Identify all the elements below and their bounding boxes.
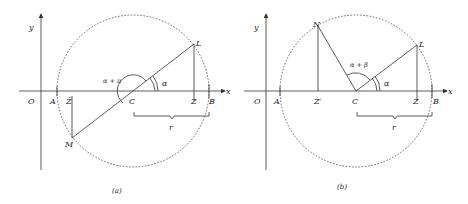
angle-outer-label-a: α + π [103, 77, 122, 85]
arc-alpha-a1 [150, 78, 155, 91]
arc-alpha-b1 [372, 78, 377, 91]
caption-b: (b) [337, 183, 347, 191]
point-C-a: C [129, 97, 135, 106]
point-Zbar: Z̄ [65, 97, 72, 106]
point-A-b: A [273, 97, 280, 106]
origin-label-b: O [254, 97, 261, 106]
origin-label-a: O [28, 97, 35, 106]
y-axis-label-b: y [253, 23, 259, 32]
caption-a: (a) [112, 187, 122, 195]
point-L-b: L [418, 40, 424, 49]
angle-alpha-label-a: α [162, 79, 168, 88]
point-M: M [64, 140, 74, 149]
radius-label-b: r [392, 123, 397, 132]
point-Z-a: Z [190, 97, 197, 106]
radius-brace-a [134, 112, 209, 119]
x-axis-label-a: x [226, 87, 231, 96]
panel-b: y x O α α + β A Z′ C Z B L N r [244, 14, 453, 191]
point-A-a: A [49, 97, 56, 106]
arc-outer-b [347, 73, 370, 80]
angle-outer-label-b: α + β [350, 61, 368, 69]
panel-a: y x O α α + π A Z̄ C Z B L M r (a) [19, 14, 231, 195]
point-C-b: C [352, 97, 358, 106]
point-N: N [312, 20, 321, 29]
angle-alpha-label-b: α [384, 79, 390, 88]
radius-label-a: r [169, 123, 174, 132]
line-CN [318, 26, 356, 91]
radius-brace-b [357, 112, 432, 119]
x-axis-label-b: x [448, 87, 453, 96]
point-B-a: B [208, 97, 215, 106]
point-L-a: L [195, 39, 201, 48]
point-Z-b: Z [412, 97, 419, 106]
point-B-b: B [432, 97, 439, 106]
y-axis-label-a: y [28, 23, 34, 32]
figure: y x O α α + π A Z̄ C Z B L M r (a) [0, 0, 468, 204]
point-Zprime: Z′ [313, 97, 322, 106]
